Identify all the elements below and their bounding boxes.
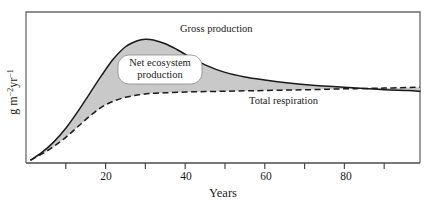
x-tick-label-80: 80 — [340, 170, 352, 182]
y-axis-title-sup1: −2 — [6, 88, 15, 97]
total-respiration-label: Total respiration — [249, 95, 319, 106]
x-axis-ticks — [66, 163, 384, 169]
gross-production-label: Gross production — [180, 23, 253, 34]
svg-text:g m−2yr−1: g m−2yr−1 — [6, 69, 20, 114]
net-ecosystem-production-label-line1: Net ecosystem — [129, 57, 191, 68]
x-tick-label-60: 60 — [260, 170, 272, 182]
chart-canvas: 20 40 60 80 Years g m−2yr−1 Gross produc… — [0, 0, 429, 204]
net-ecosystem-production-label: Net ecosystem production — [118, 55, 202, 84]
y-axis-title-sup2: −1 — [6, 69, 15, 78]
y-axis-title: g m−2yr−1 — [6, 69, 20, 114]
net-ecosystem-production-area — [31, 39, 420, 160]
ecosystem-production-figure: 20 40 60 80 Years g m−2yr−1 Gross produc… — [0, 0, 429, 204]
y-axis-title-base2: yr — [6, 78, 20, 88]
y-axis-title-base1: g m — [6, 96, 20, 115]
net-ecosystem-production-label-line2: production — [137, 69, 183, 80]
x-tick-label-20: 20 — [100, 170, 112, 182]
x-axis-title: Years — [209, 186, 237, 200]
x-tick-label-40: 40 — [180, 170, 192, 182]
